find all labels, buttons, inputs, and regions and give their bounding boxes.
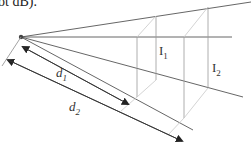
label-d2: d2 [69,99,80,117]
ray-lower [21,37,243,97]
arrow-d1 [23,47,128,104]
label-d1: d1 [56,65,67,83]
plane-i2 [168,7,208,135]
ray-top [21,2,251,37]
distance-arrows [2,37,182,141]
inverse-square-diagram: ot dB). [0,0,251,143]
label-i1: I1 [159,43,168,61]
plane-i1 [121,16,156,111]
label-i2: I2 [212,60,221,78]
